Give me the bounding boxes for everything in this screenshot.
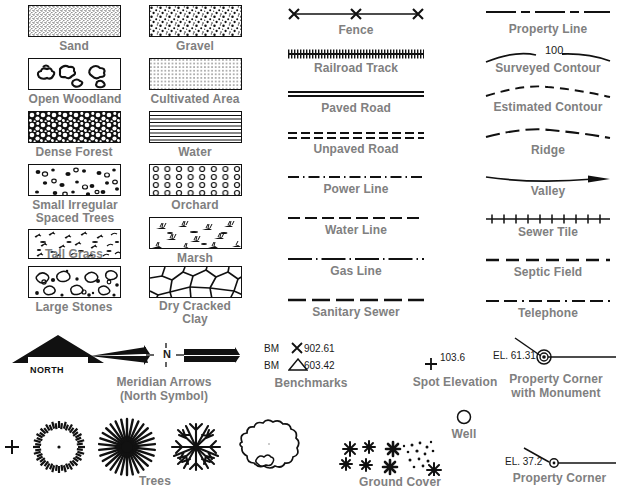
property-corner-monument-elevation: EL. 61.31 (493, 350, 536, 361)
tree-center-plus-icon (2, 437, 22, 457)
paved-road-line-icon (286, 88, 426, 100)
open-woodland-pattern-icon (29, 59, 121, 90)
septic-field-line-icon (484, 256, 612, 264)
swatch-label-dry-cracked-clay: Dry Cracked Clay (128, 300, 262, 326)
water-line-icon (286, 214, 426, 222)
swatch-dense-forest (28, 111, 121, 143)
unpaved-road-line-icon (286, 129, 426, 141)
well-label: Well (434, 428, 494, 441)
swatch-marsh (149, 217, 242, 249)
line-label-sewer-tile: Sewer Tile (480, 226, 616, 239)
symbols-legend-page: Sand Open Woodland (0, 0, 619, 490)
line-label-estimated-contour: Estimated Contour (476, 101, 619, 114)
swatch-label-cultivated-area: Cultivated Area (125, 93, 265, 106)
swatch-small-irregular-spaced-trees (28, 164, 121, 196)
swatch-label-gravel: Gravel (130, 40, 260, 53)
swatch-water (149, 111, 242, 143)
surveyed-contour-elevation-annotation: 100 (545, 44, 563, 56)
line-symbol-septic-field (484, 256, 612, 264)
line-label-property-line: Property Line (480, 23, 616, 36)
line-symbol-power-line (286, 173, 426, 181)
property-corner-monument-label: Property Corner with Monument (493, 372, 619, 400)
cultivated-area-pattern-icon (150, 59, 242, 90)
dry-cracked-clay-pattern-icon (150, 267, 242, 298)
benchmark-prefix-1: BM (264, 343, 279, 354)
benchmark-elevation-2: 603.42 (304, 360, 335, 371)
fence-line-icon (286, 6, 426, 22)
line-symbol-gas-line (286, 255, 426, 263)
ground-cover-label: Ground Cover (340, 476, 460, 489)
swatch-orchard (149, 164, 242, 196)
power-line-icon (286, 173, 426, 181)
tree-branching-crown-icon (164, 416, 228, 478)
sand-pattern-icon (29, 6, 121, 37)
swatch-label-marsh: Marsh (130, 252, 260, 265)
swatch-dry-cracked-clay (149, 266, 242, 298)
tree-outline-blob-icon (232, 416, 306, 478)
line-label-septic-field: Septic Field (480, 266, 616, 279)
line-symbol-sewer-tile (484, 212, 612, 226)
line-symbol-railroad-track (286, 48, 426, 60)
swatch-label-large-stones: Large Stones (9, 301, 139, 314)
telephone-line-icon (484, 297, 612, 305)
trees-label: Trees (100, 475, 210, 488)
swatch-label-orchard: Orchard (130, 199, 260, 212)
property-line-icon (484, 8, 612, 16)
swatch-label-tall-grass: Tall Grass (9, 248, 139, 261)
sewer-tile-line-icon (484, 212, 612, 226)
ground-cover-block (338, 440, 468, 480)
estimated-contour-line-icon (484, 84, 612, 100)
line-label-power-line: Power Line (286, 183, 426, 196)
swatch-label-open-woodland: Open Woodland (5, 93, 145, 106)
line-label-sanitary-sewer: Sanitary Sewer (286, 306, 426, 319)
line-symbol-sanitary-sewer (286, 296, 426, 304)
line-label-gas-line: Gas Line (286, 265, 426, 278)
tree-radial-burst-icon (96, 416, 158, 478)
line-label-ridge: Ridge (480, 144, 616, 157)
line-label-fence: Fence (286, 24, 426, 37)
ground-cover-icon (338, 440, 468, 476)
railroad-track-line-icon (286, 48, 426, 60)
swatch-label-small-irregular-spaced-trees: Small Irregular Spaced Trees (4, 199, 146, 225)
line-symbol-telephone (484, 297, 612, 305)
tree-ticked-circle-icon (28, 416, 90, 478)
large-stones-pattern-icon (29, 267, 121, 298)
swatch-open-woodland (28, 58, 121, 90)
gas-line-icon (286, 255, 426, 263)
line-label-water-line: Water Line (286, 224, 426, 237)
benchmark-x-icon (290, 341, 304, 355)
swatch-label-dense-forest: Dense Forest (9, 146, 139, 159)
meridian-center-letter: N (163, 348, 171, 360)
gravel-pattern-icon (150, 6, 242, 37)
scattered-trees-pattern-icon (29, 165, 121, 196)
line-symbol-property-line (484, 8, 612, 16)
spot-elevation-plus-icon (423, 356, 439, 372)
line-symbol-unpaved-road (286, 129, 426, 141)
water-pattern-icon (150, 112, 242, 143)
line-label-surveyed-contour: Surveyed Contour (480, 62, 616, 75)
sanitary-sewer-line-icon (286, 296, 426, 304)
line-label-paved-road: Paved Road (286, 102, 426, 115)
meridian-arrows-label: Meridian Arrows (North Symbol) (74, 375, 254, 403)
line-symbol-ridge (484, 127, 612, 141)
ridge-line-icon (484, 127, 612, 141)
benchmark-prefix-2: BM (264, 360, 279, 371)
orchard-pattern-icon (150, 165, 242, 196)
swatch-sand (28, 5, 121, 37)
north-arrow-label: NORTH (30, 365, 64, 375)
line-symbol-paved-road (286, 88, 426, 100)
line-label-telephone: Telephone (480, 307, 616, 320)
swatch-gravel (149, 5, 242, 37)
benchmark-elevation-1: 902.61 (304, 343, 335, 354)
swatch-label-sand: Sand (9, 40, 139, 53)
line-label-valley: Valley (480, 185, 616, 198)
line-label-unpaved-road: Unpaved Road (286, 143, 426, 156)
line-symbol-fence (286, 6, 426, 22)
property-corner-label: Property Corner (500, 472, 619, 485)
benchmarks-label: Benchmarks (256, 377, 366, 390)
swatch-cultivated-area (149, 58, 242, 90)
line-symbol-estimated-contour (484, 84, 612, 100)
spot-elevation-value: 103.6 (440, 352, 465, 363)
spot-elevation-block (423, 356, 439, 376)
dense-forest-pattern-icon (29, 112, 121, 143)
